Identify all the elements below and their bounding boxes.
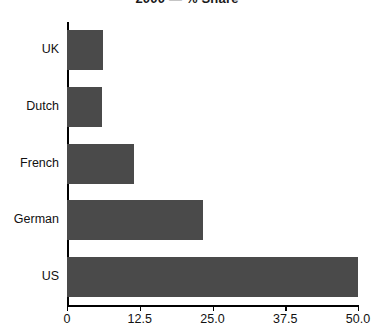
x-tick-mark bbox=[358, 306, 359, 311]
x-tick-label: 37.5 bbox=[273, 312, 297, 326]
bar-fill bbox=[67, 87, 102, 127]
category-label-uk: UK bbox=[0, 42, 59, 56]
bar-uk bbox=[67, 30, 103, 70]
bar-dutch bbox=[67, 87, 102, 127]
bar-us bbox=[67, 257, 358, 297]
x-tick-label: 0 bbox=[64, 312, 71, 326]
x-tick-label: 50.0 bbox=[346, 312, 370, 326]
bar-fill bbox=[67, 257, 358, 297]
bar-fill bbox=[67, 30, 103, 70]
bar-fill bbox=[67, 200, 203, 240]
x-tick-mark bbox=[67, 306, 68, 311]
category-label-dutch: Dutch bbox=[0, 99, 59, 113]
bar-german bbox=[67, 200, 203, 240]
bar-chart: 2000 — % Share UKDutchFrenchGermanUS 012… bbox=[0, 0, 374, 332]
x-tick-label: 25.0 bbox=[200, 312, 224, 326]
category-label-german: German bbox=[0, 212, 59, 226]
chart-title: 2000 — % Share bbox=[0, 0, 374, 6]
category-label-us: US bbox=[0, 269, 59, 283]
x-tick-mark bbox=[285, 306, 286, 311]
x-tick-mark bbox=[140, 306, 141, 311]
bar-fill bbox=[67, 144, 134, 184]
x-tick-mark bbox=[213, 306, 214, 311]
bar-french bbox=[67, 144, 134, 184]
x-tick-label: 12.5 bbox=[128, 312, 152, 326]
category-label-french: French bbox=[0, 156, 59, 170]
